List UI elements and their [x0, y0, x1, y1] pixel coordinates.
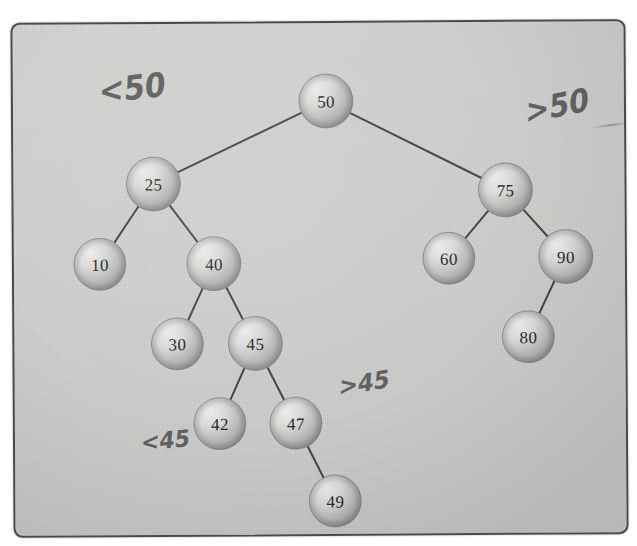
- node-label: 47: [287, 415, 305, 434]
- tree-node-75[interactable]: 75: [478, 163, 532, 217]
- annotation-less-than-45: <45: [140, 425, 191, 456]
- tree-node-47[interactable]: 47: [270, 397, 322, 449]
- node-label: 80: [520, 328, 538, 347]
- screenshot-root: 50257510406090304580424749 <50 >50 >45 <…: [0, 0, 637, 546]
- tree-edge-50-25: [176, 112, 304, 173]
- paper-surface: 50257510406090304580424749 <50 >50 >45 <…: [12, 21, 626, 536]
- tree-edge-50-75: [348, 111, 483, 179]
- tree-node-10[interactable]: 10: [74, 238, 126, 290]
- tree-node-60[interactable]: 60: [423, 232, 475, 284]
- node-label: 40: [205, 255, 223, 274]
- tree-edge-75-90: [522, 208, 549, 238]
- tree-edge-90-80: [538, 279, 555, 315]
- node-label: 50: [317, 92, 335, 111]
- node-label: 45: [247, 335, 265, 354]
- tree-edge-47-49: [307, 444, 325, 479]
- node-label: 42: [211, 415, 229, 434]
- tree-node-40[interactable]: 40: [187, 236, 241, 290]
- tree-nodes: 50257510406090304580424749: [73, 72, 595, 528]
- tree-node-50[interactable]: 50: [299, 74, 353, 128]
- tree-node-42[interactable]: 42: [194, 397, 246, 449]
- node-label: 75: [497, 181, 515, 200]
- tree-edge-45-42: [229, 366, 245, 401]
- tree-edge-25-40: [169, 204, 199, 244]
- tree-node-25[interactable]: 25: [126, 157, 180, 211]
- tree-edge-25-10: [113, 205, 140, 245]
- tree-edge-45-47: [267, 366, 285, 402]
- tree-edge-40-45: [225, 286, 243, 322]
- tree-node-45[interactable]: 45: [228, 316, 282, 370]
- tree-node-30[interactable]: 30: [151, 318, 203, 370]
- tree-node-49[interactable]: 49: [309, 475, 361, 527]
- tree-edge-40-30: [187, 286, 204, 322]
- node-label: 90: [557, 248, 575, 267]
- node-label: 60: [440, 250, 458, 269]
- node-label: 49: [327, 492, 345, 511]
- paper-sheet: 50257510406090304580424749 <50 >50 >45 <…: [10, 19, 628, 538]
- annotation-less-than-50: <50: [98, 64, 166, 111]
- node-label: 30: [169, 335, 187, 354]
- node-label: 25: [145, 175, 163, 194]
- tree-node-80[interactable]: 80: [502, 311, 554, 363]
- node-label: 10: [91, 256, 109, 275]
- tree-node-90[interactable]: 90: [539, 229, 593, 283]
- tree-edge-75-60: [464, 209, 490, 240]
